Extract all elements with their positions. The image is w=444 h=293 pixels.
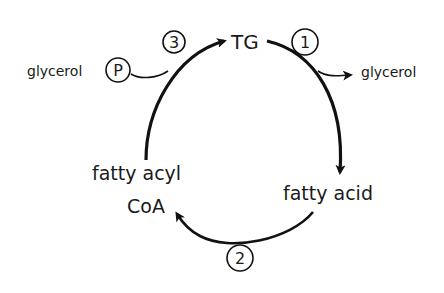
phosphate-badge: P (106, 58, 130, 82)
step-3-label: 3 (169, 33, 179, 52)
arc-fattyacid-to-acylcoa (177, 212, 313, 243)
triglyceride-cycle-diagram: TG 3 1 2 glycerol P glycerol fatty acid … (0, 0, 444, 293)
step-1-label: 1 (300, 33, 310, 52)
arc-acylcoa-to-tg (146, 41, 224, 160)
node-tg: TG (230, 30, 259, 54)
phosphate-label: P (113, 61, 123, 80)
step-2-label: 2 (235, 249, 245, 268)
step-1-badge: 1 (292, 29, 318, 55)
glycerol-output-label: glycerol (361, 64, 416, 80)
node-fatty-acid: fatty acid (283, 182, 373, 204)
glycerol-phosphate-connector (131, 71, 168, 78)
node-fatty-acyl-coa-line2: CoA (127, 195, 165, 217)
node-fatty-acyl-coa-line1: fatty acyl (92, 162, 181, 184)
step-3-badge: 3 (163, 31, 185, 53)
arc-tg-to-fattyacid (267, 41, 341, 172)
step-2-badge: 2 (227, 245, 253, 271)
glycerol-release-branch (318, 71, 350, 76)
glycerol-input-label: glycerol (27, 63, 82, 79)
